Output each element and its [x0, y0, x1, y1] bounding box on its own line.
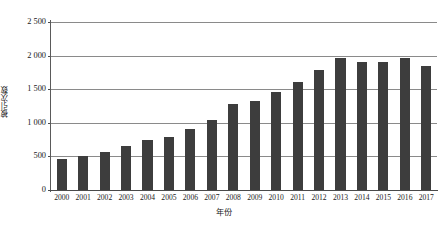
bar-2014	[357, 62, 367, 190]
bar-2001	[78, 156, 88, 190]
y-tick-label-1000: 1 000	[14, 119, 46, 127]
bar-2010	[271, 92, 281, 190]
bar-2000	[57, 159, 67, 190]
x-tick-label-2004: 2004	[140, 193, 155, 202]
bar-2008	[228, 104, 238, 190]
y-tick-label-2500: 2 500	[14, 18, 46, 26]
x-tick-label-2003: 2003	[118, 193, 133, 202]
x-tick-label-2010: 2010	[269, 193, 284, 202]
bar-2007	[207, 120, 217, 190]
bar-2013	[335, 58, 345, 190]
x-tick-label-2014: 2014	[354, 193, 369, 202]
y-axis-title: 被引次数	[0, 86, 14, 118]
bar-2005	[164, 137, 174, 190]
x-tick-label-2017: 2017	[419, 193, 434, 202]
bar-2004	[142, 140, 152, 190]
bar-2015	[378, 62, 388, 190]
bar-2009	[250, 101, 260, 190]
bar-2006	[185, 129, 195, 190]
x-axis-line	[50, 190, 438, 191]
x-tick-label-2001: 2001	[76, 193, 91, 202]
x-tick-label-2015: 2015	[376, 193, 391, 202]
x-axis-tick-labels: 2000200120022003200420052006200720082009…	[51, 193, 437, 207]
bar-2017	[421, 66, 431, 190]
x-tick-label-2013: 2013	[333, 193, 348, 202]
x-tick-label-2008: 2008	[226, 193, 241, 202]
y-tick-label-2000: 2 000	[14, 51, 46, 59]
x-tick-label-2005: 2005	[161, 193, 176, 202]
bar-2002	[100, 152, 110, 190]
x-tick-label-2012: 2012	[311, 193, 326, 202]
bar-2003	[121, 146, 131, 190]
x-tick-label-2007: 2007	[204, 193, 219, 202]
y-axis-tick-labels: 05001 0001 5002 0002 500	[14, 0, 46, 234]
x-tick-label-2011: 2011	[290, 193, 305, 202]
bar-2012	[314, 70, 324, 190]
x-axis-title: 年份	[0, 208, 448, 218]
x-tick-label-2016: 2016	[397, 193, 412, 202]
bar-series-citations	[51, 22, 437, 190]
bar-chart: 被引次数 05001 0001 5002 0002 500 2000200120…	[0, 0, 448, 234]
y-tick-label-1500: 1 500	[14, 85, 46, 93]
x-tick-label-2000: 2000	[54, 193, 69, 202]
bar-2016	[400, 58, 410, 190]
y-tick-label-500: 500	[14, 152, 46, 160]
bar-2011	[293, 82, 303, 190]
x-tick-label-2009: 2009	[247, 193, 262, 202]
x-tick-label-2006: 2006	[183, 193, 198, 202]
x-tick-label-2002: 2002	[97, 193, 112, 202]
y-tick-label-0: 0	[14, 186, 46, 194]
